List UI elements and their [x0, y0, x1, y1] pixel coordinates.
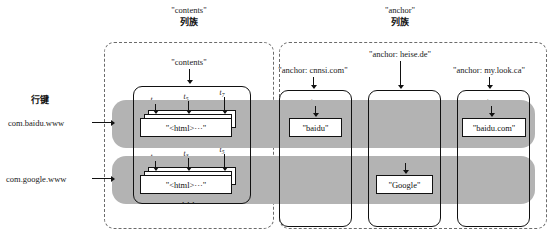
contents-family-title-cjk: 列族 [180, 18, 198, 27]
bigtable-data-model-diagram: "contents" 列族 "anchor" 列族 行键 com.baidu.w… [0, 0, 552, 239]
timestamp-contents-row2-a-arrow [155, 161, 156, 170]
contents-column-arrow [189, 69, 190, 83]
row-key-baidu-arrow [92, 122, 114, 123]
contents-column-ellipsis: ··· [181, 196, 197, 208]
row-key-google-arrow [92, 178, 114, 179]
timestamp-contents-row1-c-arrow [224, 97, 225, 113]
anchor-cnnsi-column-label: "anchor: cnnsi.com" [278, 66, 347, 75]
anchor-heise-column-arrow [400, 61, 401, 88]
timestamp-anchor-cnnsi-row1-arrow [315, 106, 316, 116]
timestamp-contents-row2-c-arrow [224, 154, 225, 170]
anchor-mylook-row1-cell: "baidu.com" [462, 118, 526, 137]
anchor-mylook-column-label: "anchor: my.look.ca" [453, 66, 525, 75]
anchor-heise-row2-cell: "Google" [376, 175, 433, 194]
timestamp-contents-row1-a-arrow [155, 104, 156, 113]
row-key-header-label: 行键 [31, 96, 49, 105]
contents-column-label: "contents" [171, 58, 206, 67]
row-key-google: com.google.www [6, 175, 66, 184]
contents-family-title: "contents" [171, 6, 206, 15]
anchor-cnnsi-row1-cell: "baidu" [289, 118, 342, 137]
anchor-heise-column-box [368, 90, 441, 227]
anchor-family-title: "anchor" [385, 6, 415, 15]
timestamp-anchor-mylook-row1-arrow [491, 106, 492, 116]
anchor-cnnsi-column-arrow [313, 77, 314, 88]
row-key-baidu: com.baidu.www [8, 119, 64, 128]
contents-row2-cell: "<html>···" [140, 175, 232, 194]
anchor-mylook-column-arrow [489, 77, 490, 88]
timestamp-contents-row2-b-arrow [188, 158, 189, 170]
anchor-heise-column-label: "anchor: heise.de" [369, 50, 431, 59]
timestamp-contents-row1-b-arrow [188, 101, 189, 113]
anchor-family-title-cjk: 列族 [391, 18, 409, 27]
anchor-mylook-column-box [457, 90, 530, 227]
timestamp-anchor-heise-row2-arrow [405, 163, 406, 173]
contents-row1-cell: "<html>···" [140, 118, 232, 137]
